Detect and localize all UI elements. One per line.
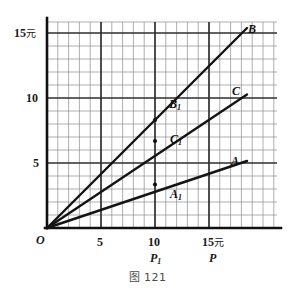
y-axis-tick-15: 15元	[14, 27, 36, 39]
line-OB	[47, 28, 247, 228]
point-label-B: B	[248, 23, 256, 35]
point-label-A1: A1	[170, 188, 182, 202]
line-OA	[47, 161, 247, 228]
point-marker-A1	[153, 182, 157, 186]
point-marker-C1	[153, 139, 157, 143]
point-label-B1: B1	[169, 98, 181, 112]
origin-label: O	[36, 234, 45, 246]
point-label-C1: C1	[170, 133, 182, 147]
point-label-A: A	[231, 155, 239, 167]
axis-lines	[45, 18, 281, 228]
x-axis-variable-P: P	[209, 252, 216, 264]
y-axis-unit-yuan: 元	[26, 28, 36, 39]
figure-caption: 图 121	[0, 268, 295, 284]
coordinate-plot	[0, 0, 295, 293]
figure-container: 15元 10 5 5 10 15元 O P1 P B C A B1 C1 A1 …	[0, 0, 295, 293]
x-axis-tick-15: 15元	[202, 236, 224, 248]
x-axis-unit-yuan: 元	[214, 237, 224, 248]
x-axis-variable-P1: P1	[150, 252, 161, 266]
y-axis-tick-5: 5	[33, 157, 39, 169]
point-marker-B1	[153, 118, 157, 122]
x-axis-tick-5: 5	[97, 236, 103, 248]
point-label-C: C	[232, 85, 240, 97]
grid-major	[47, 22, 277, 228]
x-axis-tick-10: 10	[148, 236, 160, 248]
grid-minor-horizontal	[47, 22, 277, 215]
grid-minor-vertical	[58, 22, 274, 228]
y-axis-tick-10: 10	[26, 92, 38, 104]
line-OC	[47, 95, 247, 229]
